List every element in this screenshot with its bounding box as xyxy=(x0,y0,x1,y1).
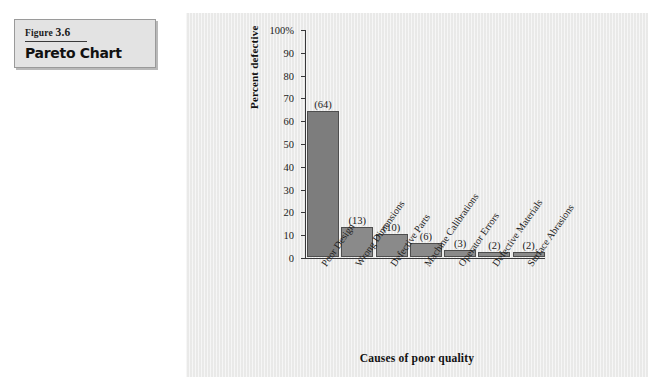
y-axis-tick: 30 xyxy=(301,190,306,191)
y-axis-tick-label: 20 xyxy=(284,207,295,218)
figure-label: Figure xyxy=(25,28,53,38)
y-axis-tick-label: 30 xyxy=(284,184,295,195)
bar-value-label: (64) xyxy=(314,99,332,110)
y-axis-tick-label: 100% xyxy=(270,25,295,36)
y-axis-tick-label: 0 xyxy=(289,253,294,264)
figure-title: Pareto Chart xyxy=(25,45,122,61)
y-axis-title: Percent defective xyxy=(248,25,260,109)
y-axis-tick-label: 80 xyxy=(284,70,295,81)
y-axis-tick: 100% xyxy=(301,30,306,31)
x-axis-title: Causes of poor quality xyxy=(186,352,648,364)
y-axis-tick: 0 xyxy=(301,258,306,259)
y-axis-tick-label: 60 xyxy=(284,116,295,127)
pareto-chart-panel: 0102030405060708090100% (64)(13)(10)(6)(… xyxy=(186,13,648,377)
y-axis-tick-label: 50 xyxy=(284,139,295,150)
y-axis-tick-label: 10 xyxy=(284,230,295,241)
y-axis-tick-label: 70 xyxy=(284,93,295,104)
bar: (64) xyxy=(307,111,339,257)
y-axis-tick: 90 xyxy=(301,53,306,54)
y-axis-tick-label: 90 xyxy=(284,47,295,58)
y-axis-tick: 10 xyxy=(301,235,306,236)
y-axis-tick: 40 xyxy=(301,167,306,168)
figure-caption-box: Figure 3.6 Pareto Chart xyxy=(14,19,156,68)
y-axis-tick: 70 xyxy=(301,98,306,99)
figure-number: Figure 3.6 xyxy=(25,26,71,38)
y-axis-tick: 20 xyxy=(301,212,306,213)
y-axis-tick: 80 xyxy=(301,76,306,77)
plot-area: 0102030405060708090100% (64)(13)(10)(6)(… xyxy=(305,30,545,258)
bar-value-label: (3) xyxy=(454,238,466,249)
figure-divider xyxy=(25,41,87,42)
y-axis-tick: 60 xyxy=(301,121,306,122)
y-axis-tick-label: 40 xyxy=(284,161,295,172)
figure-number-value: 3.6 xyxy=(56,26,71,38)
y-axis-tick: 50 xyxy=(301,144,306,145)
